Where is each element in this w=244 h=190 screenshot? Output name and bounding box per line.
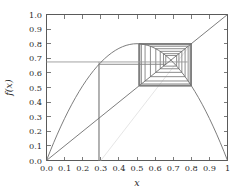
y-tick-label: 0.0 xyxy=(29,156,42,166)
x-tick-label: 0.2 xyxy=(76,163,89,173)
y-tick-label: 0.7 xyxy=(29,53,42,63)
y-tick-label: 0.1 xyxy=(29,141,42,151)
x-tick-label: 0.8 xyxy=(185,163,198,173)
x-tick-label: 0.4 xyxy=(112,163,125,173)
x-tick-label: 0.6 xyxy=(149,163,162,173)
cobweb-plot-figure: 0.00.10.20.30.40.50.60.70.80.91 0.00.10.… xyxy=(0,0,244,190)
y-tick-label: 0.8 xyxy=(29,39,42,49)
x-tick-label: 0.9 xyxy=(203,163,216,173)
x-tick-label: 0.7 xyxy=(167,163,180,173)
start-guide-line xyxy=(101,44,192,161)
y-tick-label: 0.9 xyxy=(29,24,42,34)
y-tick-label: 0.2 xyxy=(29,126,42,136)
plot-canvas: 0.00.10.20.30.40.50.60.70.80.91 0.00.10.… xyxy=(0,0,244,190)
x-tick-label: 0.1 xyxy=(58,163,71,173)
x-tick-labels: 0.00.10.20.30.40.50.60.70.80.91 xyxy=(40,163,230,173)
y-tick-label: 0.6 xyxy=(29,68,42,78)
y-tick-labels: 0.00.10.20.30.40.50.60.70.80.91.0 xyxy=(29,10,42,166)
x-tick-label: 0.5 xyxy=(130,163,143,173)
logistic-map-curve xyxy=(47,44,228,161)
data-series-layer xyxy=(47,15,228,161)
x-tick-label: 1 xyxy=(225,163,230,173)
y-tick-label: 0.4 xyxy=(29,97,42,107)
identity-line xyxy=(47,15,228,161)
y-tick-label: 0.5 xyxy=(29,83,42,93)
y-tick-label: 1.0 xyxy=(29,10,42,20)
y-axis-title: f(x) xyxy=(3,79,14,97)
x-tick-label: 0.3 xyxy=(94,163,107,173)
y-tick-label: 0.3 xyxy=(29,112,42,122)
x-axis-title: x xyxy=(134,177,140,188)
